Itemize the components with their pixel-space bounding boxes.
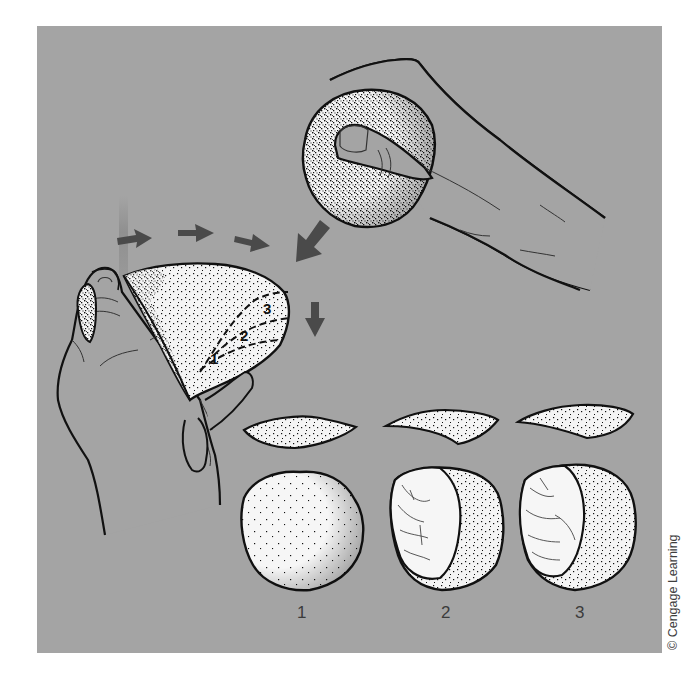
- flake-2: [386, 410, 498, 444]
- copyright-notice: © Cengage Learning: [666, 534, 680, 650]
- stage-label-3: 3: [575, 603, 584, 623]
- arrow-down-left-icon: [296, 220, 330, 262]
- flake-1: [244, 417, 356, 449]
- stage-label-2: 2: [441, 603, 450, 623]
- arrow-down-icon: [305, 302, 325, 337]
- core-two-scars: [520, 465, 636, 590]
- core-one-scar: [391, 468, 504, 591]
- arrow-right-icon: [234, 234, 270, 252]
- flake-3: [518, 405, 633, 438]
- arrow-right-icon: [117, 229, 152, 248]
- arrow-right-icon: [178, 224, 214, 242]
- core-scar-label-1: 1: [210, 350, 218, 367]
- core-scar-label-2: 2: [240, 327, 248, 344]
- stage-label-1: 1: [297, 603, 306, 623]
- core-scar-label-3: 3: [263, 300, 271, 317]
- stone-tool-illustration: [0, 0, 695, 674]
- core-unflaked: [241, 472, 363, 591]
